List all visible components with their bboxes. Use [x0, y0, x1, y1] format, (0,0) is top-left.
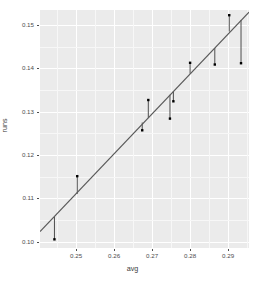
- regression-line-segment: [40, 12, 249, 231]
- y-tick-mark: [37, 68, 39, 69]
- data-point: [76, 175, 78, 177]
- plot-panel: [40, 10, 249, 248]
- x-tick-label: 0.29: [213, 253, 243, 259]
- y-tick-label: 0.14: [8, 65, 34, 71]
- y-tick-label: 0.13: [8, 109, 34, 115]
- x-tick-mark: [190, 249, 191, 251]
- x-tick-mark: [228, 249, 229, 251]
- y-tick-mark: [37, 198, 39, 199]
- data-point: [228, 14, 230, 16]
- data-point: [147, 99, 149, 101]
- y-tick-mark: [37, 25, 39, 26]
- x-tick-label: 0.26: [99, 253, 129, 259]
- y-tick-mark: [37, 242, 39, 243]
- y-tick-mark: [37, 155, 39, 156]
- residual-segments: [54, 15, 241, 239]
- data-point: [189, 62, 191, 64]
- y-tick-label: 0.12: [8, 152, 34, 158]
- regression-line: [40, 12, 249, 231]
- x-tick-label: 0.28: [175, 253, 205, 259]
- y-axis-title: runs: [0, 106, 9, 146]
- data-point: [53, 238, 55, 240]
- data-point: [169, 117, 171, 119]
- data-point: [214, 63, 216, 65]
- x-tick-mark: [76, 249, 77, 251]
- x-tick-mark: [114, 249, 115, 251]
- data-point: [240, 62, 242, 64]
- x-axis-title: avg: [0, 264, 265, 273]
- x-tick-label: 0.27: [137, 253, 167, 259]
- y-tick-mark: [37, 112, 39, 113]
- data-point: [172, 100, 174, 102]
- data-points: [53, 14, 242, 241]
- scatter-plot-figure: 0.100.110.120.130.140.15 0.250.260.270.2…: [0, 0, 265, 283]
- data-point: [141, 129, 143, 131]
- y-tick-label: 0.10: [8, 239, 34, 245]
- x-tick-mark: [152, 249, 153, 251]
- y-tick-label: 0.15: [8, 22, 34, 28]
- data-layer: [40, 10, 249, 248]
- y-tick-label: 0.11: [8, 195, 34, 201]
- x-tick-label: 0.25: [61, 253, 91, 259]
